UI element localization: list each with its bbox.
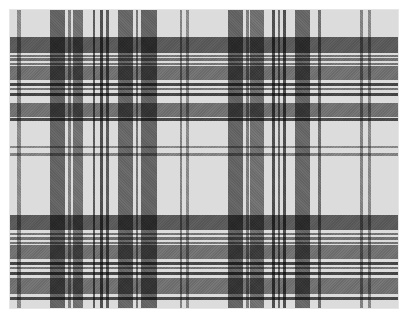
horizontal-stripe [10,83,398,86]
tartan-pattern [10,10,398,308]
horizontal-stripe [10,242,398,244]
horizontal-stripe [10,215,398,230]
horizontal-stripe [10,153,398,156]
horizontal-stripe [10,63,398,65]
horizontal-stripe [10,278,398,294]
horizontal-stripe [10,297,398,300]
horizontal-stripe [10,37,398,53]
horizontal-stripe [10,93,398,96]
horizontal-stripe [10,103,398,117]
horizontal-stripe [10,233,398,235]
horizontal-stripe [10,55,398,57]
horizontal-stripe [10,237,398,240]
horizontal-stripe [10,88,398,90]
horizontal-stripe [10,267,398,269]
horizontal-stripe [10,146,398,148]
horizontal-stripe [10,262,398,265]
horizontal-stripe [10,118,398,121]
horizontal-stripe [10,245,398,259]
horizontal-stripe [10,272,398,275]
horizontal-stripe [10,58,398,61]
horizontal-stripe [10,66,398,80]
